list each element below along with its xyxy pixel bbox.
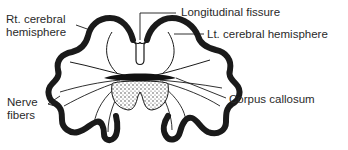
label-rt-cerebral-hemisphere: Rt. cerebral hemisphere [6, 13, 66, 39]
label-lt-cerebral-hemisphere: Lt. cerebral hemisphere [207, 28, 328, 41]
brain-diagram: Rt. cerebral hemisphere Longitudinal fis… [0, 0, 348, 150]
corpus-callosum [104, 74, 176, 82]
fissure [132, 40, 148, 65]
label-longitudinal-fissure: Longitudinal fissure [181, 6, 280, 19]
label-nerve-fibers: Nerve fibers [7, 96, 38, 122]
thalamus-region [112, 81, 169, 110]
label-corpus-callosum: Corpus callosum [229, 93, 315, 106]
